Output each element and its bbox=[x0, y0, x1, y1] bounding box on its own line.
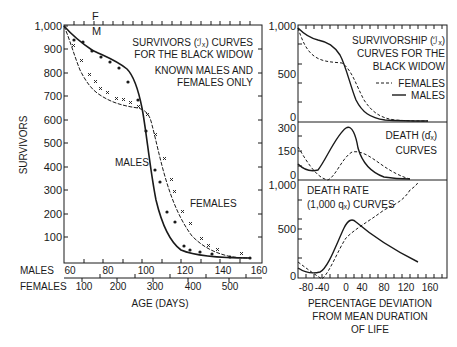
svg-text:160: 160 bbox=[251, 265, 268, 276]
death-rate-females-curve bbox=[298, 182, 418, 279]
male-mean-marker: M bbox=[92, 25, 101, 37]
legend-males: MALES bbox=[411, 90, 445, 101]
left-chart-title: SURVIVORS (ℐₓ) CURVES FOR THE BLACK WIDO… bbox=[132, 37, 253, 88]
svg-text:160: 160 bbox=[422, 282, 439, 293]
svg-text:PERCENTAGE DEVIATION: PERCENTAGE DEVIATION bbox=[308, 298, 432, 309]
svg-text:SURVIVORSHIP (ℐₓ): SURVIVORSHIP (ℐₓ) bbox=[352, 35, 445, 46]
svg-text:OF LIFE: OF LIFE bbox=[351, 324, 389, 335]
svg-text:0: 0 bbox=[343, 282, 349, 293]
death-panel-title: DEATH (ɗₓ) CURVES bbox=[386, 130, 438, 156]
svg-text:DEATH RATE: DEATH RATE bbox=[307, 185, 369, 196]
x-axis-title: AGE (DAYS) bbox=[131, 298, 188, 309]
svg-text:CURVES: CURVES bbox=[396, 145, 438, 156]
svg-text:120: 120 bbox=[177, 265, 194, 276]
svg-text:100: 100 bbox=[44, 231, 62, 243]
svg-text:400: 400 bbox=[185, 281, 202, 292]
svg-text:500: 500 bbox=[278, 68, 296, 80]
svg-text:100: 100 bbox=[76, 281, 93, 292]
svg-text:CURVES FOR THE: CURVES FOR THE bbox=[357, 48, 445, 59]
svg-text:1,000: 1,000 bbox=[268, 20, 296, 32]
svg-text:140: 140 bbox=[215, 265, 232, 276]
svg-text:400: 400 bbox=[44, 161, 62, 173]
left-plot-frame bbox=[64, 25, 262, 263]
svg-text:KNOWN MALES AND: KNOWN MALES AND bbox=[155, 65, 253, 76]
left-y-tick-labels: 1,000 900 800 700 600 500 400 300 200 10… bbox=[34, 20, 62, 243]
right-y-tick-labels: 1,000 500 0 300 150 0 1,000 500 0 bbox=[268, 20, 296, 282]
males-x-tick-labels: 60 80 100 120 140 160 bbox=[64, 265, 267, 276]
svg-text:-80: -80 bbox=[299, 282, 314, 293]
females-axis-label: FEMALES bbox=[20, 281, 67, 292]
right-x-axis-title: PERCENTAGE DEVIATION FROM MEAN DURATION … bbox=[308, 298, 432, 335]
survivorship-legend: FEMALES MALES bbox=[376, 78, 445, 101]
female-mean-marker: F bbox=[92, 10, 99, 22]
svg-text:DEATH (ɗₓ): DEATH (ɗₓ) bbox=[386, 130, 437, 141]
svg-text:80: 80 bbox=[102, 265, 114, 276]
svg-text:300: 300 bbox=[147, 281, 164, 292]
svg-text:500: 500 bbox=[278, 223, 296, 235]
svg-text:100: 100 bbox=[138, 265, 155, 276]
svg-text:200: 200 bbox=[44, 208, 62, 220]
svg-text:80: 80 bbox=[378, 282, 390, 293]
svg-text:300: 300 bbox=[44, 184, 62, 196]
svg-text:FEMALES ONLY: FEMALES ONLY bbox=[177, 77, 253, 88]
left-bottom-ticks-males bbox=[84, 259, 240, 263]
survivorship-panel-title: SURVIVORSHIP (ℐₓ) CURVES FOR THE BLACK W… bbox=[352, 35, 445, 72]
legend-females: FEMALES bbox=[398, 78, 445, 89]
females-curve-label: FEMALES bbox=[190, 198, 237, 209]
svg-text:60: 60 bbox=[64, 265, 76, 276]
svg-text:1,000: 1,000 bbox=[268, 179, 296, 191]
svg-text:800: 800 bbox=[44, 67, 62, 79]
death-females-curve bbox=[298, 147, 410, 180]
females-x-tick-labels: 100 200 300 400 500 bbox=[76, 281, 239, 292]
svg-text:(1,000 qₓ) CURVES: (1,000 qₓ) CURVES bbox=[307, 199, 395, 210]
svg-text:150: 150 bbox=[278, 145, 296, 157]
svg-text:500: 500 bbox=[44, 137, 62, 149]
svg-text:700: 700 bbox=[44, 90, 62, 102]
svg-text:1,000: 1,000 bbox=[34, 20, 62, 32]
svg-text:0: 0 bbox=[290, 270, 296, 282]
svg-text:-40: -40 bbox=[315, 282, 330, 293]
right-top-ticks bbox=[306, 25, 442, 29]
females-curve bbox=[64, 26, 250, 258]
right-y-ticks bbox=[298, 44, 302, 258]
svg-text:900: 900 bbox=[44, 43, 62, 55]
right-chart: 1,000 500 0 300 150 0 1,000 500 0 SURVIV… bbox=[268, 20, 447, 335]
svg-text:FROM MEAN DURATION: FROM MEAN DURATION bbox=[312, 311, 427, 322]
males-curve-label: MALES bbox=[115, 157, 149, 168]
right-x-tick-labels: -80 -40 0 40 80 120 160 bbox=[299, 282, 439, 293]
chart-canvas: 1,000 900 800 700 600 500 400 300 200 10… bbox=[0, 0, 457, 347]
svg-text:600: 600 bbox=[44, 114, 62, 126]
svg-text:SURVIVORS (ℐₓ) CURVES: SURVIVORS (ℐₓ) CURVES bbox=[132, 37, 253, 48]
svg-text:300: 300 bbox=[278, 122, 296, 134]
y-axis-label: SURVIVORS bbox=[18, 115, 29, 174]
svg-text:BLACK WIDOW: BLACK WIDOW bbox=[373, 61, 446, 72]
males-curve bbox=[64, 26, 250, 258]
svg-text:200: 200 bbox=[110, 281, 127, 292]
svg-text:FOR THE BLACK WIDOW: FOR THE BLACK WIDOW bbox=[134, 49, 253, 60]
death-rate-panel-title: DEATH RATE (1,000 qₓ) CURVES bbox=[307, 185, 395, 210]
svg-text:40: 40 bbox=[356, 282, 368, 293]
svg-text:500: 500 bbox=[222, 281, 239, 292]
males-axis-label: MALES bbox=[20, 265, 54, 276]
left-chart: 1,000 900 800 700 600 500 400 300 200 10… bbox=[18, 10, 268, 309]
svg-text:120: 120 bbox=[398, 282, 415, 293]
